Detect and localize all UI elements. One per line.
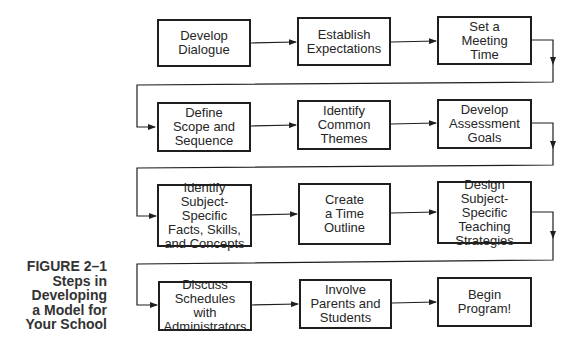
arrow-3-down (531, 40, 553, 64)
step-label: Define Scope and Sequence (173, 106, 235, 148)
step-begin-program: Begin Program! (437, 277, 532, 327)
arrow-6-down (531, 123, 553, 148)
caption-line: Steps in (26, 274, 107, 289)
step-establish-expectations: Establish Expectations (297, 17, 391, 66)
step-develop-assessment-goals: Develop Assessment Goals (437, 99, 532, 149)
step-design-teaching-strategies: Design Subject-Specific Teaching Strateg… (437, 181, 532, 244)
step-label: Design Subject-Specific Teaching Strateg… (441, 178, 528, 248)
caption-line: Your School (26, 317, 107, 332)
step-label: Develop Dialogue (178, 29, 229, 57)
step-label: Identify Common Themes (318, 104, 371, 146)
arrow-9-down (532, 212, 553, 238)
step-create-time-outline: Create a Time Outline (298, 183, 391, 245)
arrow-4-5 (251, 125, 296, 126)
step-identify-common-themes: Identify Common Themes (297, 100, 391, 150)
arrow-2-3 (391, 41, 436, 42)
caption-line: Developing (26, 288, 107, 303)
step-develop-dialogue: Develop Dialogue (157, 19, 251, 67)
step-identify-subject-specific-facts: Identify Subject-Specific Facts, Skills,… (157, 184, 252, 247)
step-label: Set a Meeting Time (461, 20, 507, 62)
caption-figure-number: FIGURE 2–1 (26, 259, 107, 274)
step-define-scope-sequence: Define Scope and Sequence (157, 102, 251, 152)
step-label: Establish Expectations (307, 28, 381, 56)
caption-line: a Model for (26, 303, 107, 318)
arrow-1-2 (251, 42, 296, 43)
step-label: Begin Program! (458, 288, 511, 316)
step-label: Involve Parents and Students (310, 283, 380, 325)
arrow-8-9 (391, 212, 436, 213)
arrow-10-11 (252, 304, 298, 305)
figure-caption: FIGURE 2–1 Steps in Developing a Model f… (26, 259, 107, 332)
step-label: Discuss Schedules with Administrators (162, 278, 248, 334)
flowchart: Develop Dialogue Establish Expectations … (0, 0, 583, 354)
arrow-7-8 (252, 214, 297, 215)
step-label: Identify Subject-Specific Facts, Skills,… (161, 181, 248, 251)
step-label: Create a Time Outline (324, 193, 365, 235)
step-involve-parents-students: Involve Parents and Students (299, 279, 392, 329)
step-label: Develop Assessment Goals (449, 103, 520, 145)
arrow-11-12 (392, 302, 436, 303)
arrow-5-6 (391, 123, 436, 124)
step-discuss-schedules: Discuss Schedules with Administrators (158, 281, 252, 331)
step-set-meeting-time: Set a Meeting Time (437, 16, 532, 65)
